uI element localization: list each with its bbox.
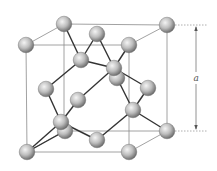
atom-face-left: [38, 81, 54, 97]
atom-interior-2: [106, 60, 122, 76]
cube-edge: [64, 24, 167, 25]
atom-interior-1: [73, 52, 89, 68]
dimension-marker: a: [175, 25, 207, 131]
atom-corner-front-top-left: [18, 37, 34, 53]
atom-corner-front-bottom-left: [19, 144, 35, 160]
atom-face-bottom: [89, 132, 105, 148]
atom-interior-3: [53, 114, 69, 130]
dimension-label-a: a: [194, 73, 199, 83]
atom-interior-4: [125, 102, 141, 118]
atom-corner-front-top-right: [121, 37, 137, 53]
atom-face-right: [140, 80, 156, 96]
atom-face-front: [70, 92, 86, 108]
diamond-cubic-diagram: a: [0, 0, 217, 171]
atom-corner-back-top-right: [159, 17, 175, 33]
atom-corner-back-top-left: [56, 16, 72, 32]
atom-corner-back-bottom-right: [159, 123, 175, 139]
cube-edge: [26, 45, 27, 152]
atom-face-top: [89, 26, 105, 42]
atom-corner-front-bottom-right: [121, 144, 137, 160]
